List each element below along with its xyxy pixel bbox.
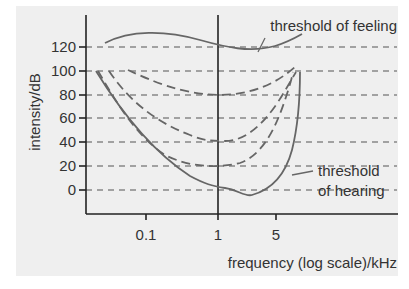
x-axis-title: frequency (log scale)/kHz: [228, 254, 397, 271]
threshold-of-hearing-label-line2: of hearing: [318, 182, 385, 199]
threshold-of-hearing-label-line1: threshold: [318, 162, 380, 179]
y-tick-20: 20: [59, 157, 76, 174]
y-tick-60: 60: [59, 109, 76, 126]
y-tick-100: 100: [51, 62, 76, 79]
x-tick-0.1: 0.1: [136, 226, 157, 243]
feeling-pointer: [258, 38, 265, 52]
y-tick-labels: 120 100 80 60 40 20 0: [51, 38, 76, 198]
y-tick-40: 40: [59, 133, 76, 150]
x-tick-labels: 0.1 1 5: [136, 226, 281, 243]
hearing-chart: 120 100 80 60 40 20 0 0.1 1 5 intensity/…: [0, 0, 409, 289]
y-axis-title: intensity/dB: [26, 73, 43, 151]
threshold-of-hearing-curve: [96, 71, 300, 195]
curves: [96, 33, 313, 196]
threshold-of-feeling-label: threshold of feeling: [270, 17, 397, 34]
y-tick-80: 80: [59, 86, 76, 103]
y-tick-0: 0: [68, 181, 76, 198]
x-tick-1: 1: [214, 226, 222, 243]
hearing-pointer: [292, 171, 313, 175]
y-tick-120: 120: [51, 38, 76, 55]
x-tick-5: 5: [272, 226, 280, 243]
